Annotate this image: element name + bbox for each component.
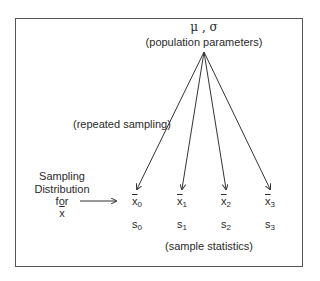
sampling-dist-line-2: Distribution [34, 183, 89, 195]
sample-mean-3: x3 [265, 195, 275, 211]
sample-mean-0: x0 [132, 195, 142, 211]
arrow-to-sample-3 [204, 52, 270, 189]
repeated-sampling-label: (repeated sampling) [73, 118, 171, 130]
arrow-to-sample-2 [204, 52, 226, 189]
population-symbols: μ , σ [190, 21, 217, 33]
sampling-dist-line-1: Sampling [39, 170, 85, 182]
arrow-to-sample-1 [182, 52, 204, 189]
sample-mean-1: x1 [177, 195, 187, 211]
sample-mean-2: x2 [221, 195, 231, 211]
sample-sd-2: s2 [221, 218, 231, 234]
sampling-dist-xbar: x [59, 207, 65, 219]
population-label: (population parameters) [146, 36, 263, 48]
sample-sd-0: s0 [132, 218, 142, 234]
sample-sd-1: s1 [177, 218, 187, 234]
sample-sd-3: s3 [265, 218, 275, 234]
sampling-dist-line-3: for [56, 195, 69, 207]
sample-statistics-label: (sample statistics) [165, 240, 253, 252]
